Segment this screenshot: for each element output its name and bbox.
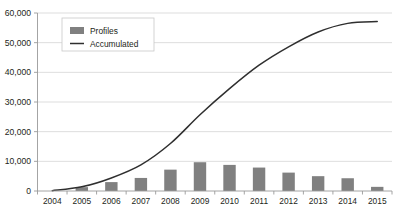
x-axis-ticks xyxy=(38,191,393,195)
bar xyxy=(135,178,147,191)
x-axis-tick-label: 2013 xyxy=(309,196,328,206)
bar xyxy=(105,182,117,191)
x-axis-tick-label: 2007 xyxy=(132,196,151,206)
x-axis-tick-label: 2015 xyxy=(368,196,387,206)
y-axis-tick-label: 20,000 xyxy=(5,127,32,137)
y-axis-tick-label: 40,000 xyxy=(5,67,32,77)
x-axis-tick-label: 2010 xyxy=(220,196,239,206)
x-axis-tick-label: 2009 xyxy=(191,196,210,206)
bar xyxy=(194,162,206,191)
bar xyxy=(341,178,353,191)
y-axis-tick-label: 0 xyxy=(26,186,31,196)
bar xyxy=(223,165,235,191)
bar xyxy=(371,187,383,191)
bar-series-profiles xyxy=(76,162,384,191)
legend-label-accumulated: Accumulated xyxy=(90,39,139,49)
y-axis-ticks xyxy=(34,13,38,191)
y-axis-tick-labels: 010,00020,00030,00040,00050,00060,000 xyxy=(5,8,32,196)
x-axis-tick-label: 2008 xyxy=(161,196,180,206)
chart-legend: Profiles Accumulated xyxy=(62,18,154,51)
chart-container: 010,00020,00030,00040,00050,00060,000 20… xyxy=(0,0,397,216)
x-axis-tick-label: 2014 xyxy=(338,196,357,206)
y-axis xyxy=(34,13,38,191)
x-axis-tick-label: 2012 xyxy=(279,196,298,206)
y-axis-tick-label: 30,000 xyxy=(5,97,32,107)
y-axis-tick-label: 60,000 xyxy=(5,8,32,18)
y-axis-tick-label: 50,000 xyxy=(5,38,32,48)
bar xyxy=(253,168,265,191)
combo-bar-line-chart: 010,00020,00030,00040,00050,00060,000 20… xyxy=(0,0,397,216)
bar xyxy=(312,176,324,191)
bar xyxy=(282,173,294,191)
legend-swatch-profiles-icon xyxy=(70,27,84,34)
y-axis-tick-label: 10,000 xyxy=(5,156,32,166)
x-axis xyxy=(38,191,393,195)
x-axis-tick-label: 2005 xyxy=(72,196,91,206)
x-axis-tick-labels: 2004200520062007200820092010201120122013… xyxy=(43,196,387,206)
x-axis-tick-label: 2011 xyxy=(250,196,268,206)
x-axis-tick-label: 2006 xyxy=(102,196,121,206)
bar xyxy=(164,170,176,191)
legend-label-profiles: Profiles xyxy=(90,26,118,36)
x-axis-tick-label: 2004 xyxy=(43,196,62,206)
